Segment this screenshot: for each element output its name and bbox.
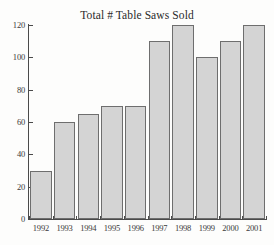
bar-1993[interactable] (54, 122, 76, 219)
y-tick-mark (29, 122, 33, 123)
bar-1994[interactable] (78, 114, 100, 219)
y-tick-label: 120 (0, 20, 25, 30)
bar-chart-figure: Total # Table Saws Sold 020406080100120 … (0, 0, 274, 245)
bar-1998[interactable] (172, 25, 194, 219)
bar-1992[interactable] (30, 171, 52, 220)
y-tick-mark (29, 90, 33, 91)
y-tick-label: 80 (0, 85, 25, 95)
y-tick-label: 60 (0, 117, 25, 127)
y-tick-mark (29, 57, 33, 58)
y-tick-label: 0 (0, 214, 25, 224)
y-tick-label: 20 (0, 182, 25, 192)
x-tick-mark (266, 216, 267, 220)
y-tick-label: 100 (0, 52, 25, 62)
bar-1995[interactable] (101, 106, 123, 219)
x-tick-label-2001: 2001 (239, 223, 269, 233)
y-tick-mark (29, 25, 33, 26)
bar-2000[interactable] (220, 41, 242, 219)
y-tick-label: 40 (0, 149, 25, 159)
bar-1999[interactable] (196, 57, 218, 219)
chart-title: Total # Table Saws Sold (0, 9, 274, 21)
bar-1997[interactable] (149, 41, 171, 219)
y-tick-mark (29, 154, 33, 155)
bar-2001[interactable] (243, 25, 265, 219)
bar-1996[interactable] (125, 106, 147, 219)
